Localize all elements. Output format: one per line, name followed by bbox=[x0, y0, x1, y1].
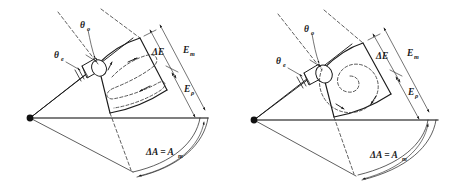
delta-E-text: ΔE bbox=[151, 47, 164, 57]
inlet-nozzle bbox=[297, 62, 335, 88]
theta-o-symbol: θ bbox=[304, 24, 309, 34]
panel-spiral-flow: θ o θ e ΔE E m E ρ ΔA = A m bbox=[232, 0, 464, 189]
delta-E-text: ΔE bbox=[375, 51, 388, 61]
theta-o-symbol: θ bbox=[80, 20, 85, 30]
delta-A-subscript: m bbox=[178, 152, 183, 159]
panel-serpentine-flow: θ o θ e ΔE E m E ρ ΔA = bbox=[0, 0, 232, 189]
label-delta-E: ΔE bbox=[375, 51, 388, 61]
E-p-subscript: ρ bbox=[190, 89, 194, 96]
E-p-symbol: E bbox=[407, 87, 414, 97]
theta-e-subscript: e bbox=[283, 61, 286, 68]
apex-vertex-dot bbox=[27, 115, 34, 122]
outer-arc-Am bbox=[133, 118, 200, 172]
label-delta-E: ΔE bbox=[151, 47, 164, 57]
theta-o-subscript: o bbox=[311, 29, 314, 36]
E-p-subscript: ρ bbox=[414, 92, 418, 99]
theta-reference-dashed-lines bbox=[58, 9, 140, 170]
delta-A-text: ΔA = A bbox=[145, 147, 174, 157]
theta-e-pointer bbox=[288, 68, 302, 76]
E-m-subscript: m bbox=[414, 53, 419, 60]
label-theta-e: θ e bbox=[276, 56, 286, 68]
label-delta-A: ΔA = A m bbox=[369, 150, 407, 162]
dimension-lines bbox=[368, 28, 429, 119]
label-E-m: E m bbox=[406, 48, 419, 60]
E-p-symbol: E bbox=[183, 84, 190, 94]
panel-right-svg: θ o θ e ΔE E m E ρ ΔA = A m bbox=[232, 0, 464, 189]
label-theta-o: θ o bbox=[304, 24, 314, 36]
theta-e-symbol: θ bbox=[276, 56, 281, 66]
serpentine-flow-path bbox=[107, 55, 165, 108]
E-m-subscript: m bbox=[190, 50, 195, 57]
theta-o-subscript: o bbox=[87, 25, 90, 32]
theta-e-subscript: e bbox=[61, 55, 64, 62]
E-m-symbol: E bbox=[406, 48, 413, 58]
apex-vertex-dot bbox=[251, 117, 258, 124]
dimension-lines bbox=[144, 25, 205, 117]
theta-e-pointer bbox=[66, 62, 80, 70]
sector-rays bbox=[254, 44, 356, 176]
E-m-symbol: E bbox=[182, 45, 189, 55]
theta-o-pointer bbox=[86, 30, 97, 62]
figure-root: θ o θ e ΔE E m E ρ ΔA = bbox=[0, 0, 464, 189]
label-E-m: E m bbox=[182, 45, 195, 57]
panel-left-svg: θ o θ e ΔE E m E ρ ΔA = bbox=[0, 0, 232, 189]
sector-rays bbox=[30, 38, 133, 172]
theta-e-symbol: θ bbox=[54, 50, 59, 60]
delta-A-text: ΔA = A bbox=[369, 150, 398, 160]
label-delta-A: ΔA = A m bbox=[145, 147, 183, 159]
flow-direction-arrows bbox=[336, 96, 376, 109]
delta-A-subscript: m bbox=[402, 155, 407, 162]
label-theta-o: θ o bbox=[80, 20, 90, 32]
label-theta-e: θ e bbox=[54, 50, 64, 62]
